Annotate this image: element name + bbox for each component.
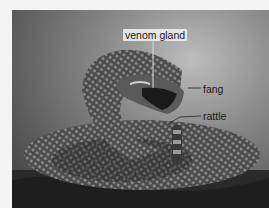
label-rattle: rattle <box>203 110 226 122</box>
label-fang: fang <box>203 83 223 95</box>
label-venom-gland: venom gland <box>123 29 187 41</box>
